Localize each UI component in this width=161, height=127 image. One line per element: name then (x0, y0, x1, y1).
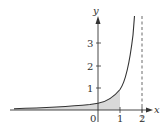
x-axis-arrow-icon (146, 108, 153, 113)
x-axis-label: x (154, 104, 160, 115)
x-tick-label-1: 1 (117, 113, 123, 124)
y-axis-arrow-icon (96, 16, 101, 24)
graph: y x 3 2 1 0 1 2 (0, 0, 161, 127)
y-tick-label-2: 2 (87, 61, 93, 72)
y-axis-label: y (92, 5, 99, 16)
x-tick-label-2: 2 (139, 113, 145, 124)
x-tick-label-0: 0 (90, 113, 96, 124)
y-tick-label-3: 3 (87, 38, 93, 49)
y-tick-label-1: 1 (87, 83, 93, 94)
